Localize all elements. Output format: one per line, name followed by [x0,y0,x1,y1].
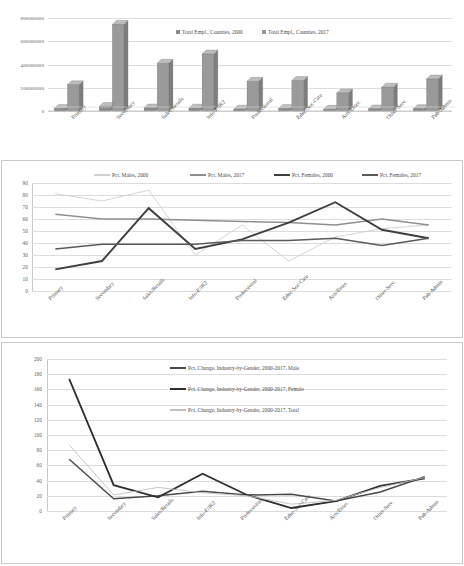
y-tick-label: 800000000 [21,16,44,21]
legend-item: Total Empl., Counties, 2017 [262,29,329,35]
legend-label: Pct. Change, Industry-by-Gender, 2000-20… [188,407,299,413]
y-tick-label: 60 [10,216,28,222]
y-tick-label: 200 [18,356,42,362]
y-tick-label: 90 [10,180,28,186]
legend-line-icon [170,388,186,390]
y-tick-label: 160 [18,386,42,392]
y-tick-label: 100 [18,432,42,438]
y-tick-label: 20 [10,264,28,270]
series-line [69,379,425,508]
y-tick-label: 50 [10,228,28,234]
bar-front [189,108,201,111]
y-tick-label: 200000000 [21,85,44,90]
bar-front [202,54,214,111]
chart-2-pct-by-gender: 9080706050403020100 Pct. Males, 2000Pct.… [1,160,463,338]
chart-1-total-employment: 8000000006000000004000000002000000000 To… [0,0,464,158]
bar-front [427,79,439,111]
legend-label: Pct. Males, 2017 [208,172,244,178]
bar-side [124,20,128,111]
y-tick-label: 0 [10,288,28,294]
y-tick-label: 40 [10,240,28,246]
y-tick-label: 20 [18,493,42,499]
y-tick-label: 30 [10,252,28,258]
legend-item: Pct. Change, Industry-by-Gender, 2000-20… [170,407,299,413]
chart-1-bars [48,18,452,111]
legend-label: Total Empl., Counties, 2000 [182,29,243,35]
bar-front [54,108,66,111]
legend-item: Total Empl., Counties, 2000 [176,29,243,35]
chart-2-lines [32,183,452,291]
legend-line-icon [170,367,186,369]
legend-item: Pct. Females, 2000 [274,172,333,178]
chart-3-pct-change: 200180160140120100806040200 Pct. Change,… [1,342,463,564]
legend-label: Pct. Change, Industry-by-Gender, 2000-20… [188,386,304,392]
bar-front [144,108,156,111]
legend-label: Total Empl., Counties, 2017 [268,29,329,35]
y-tick-label: 120 [18,417,42,423]
legend-line-icon [94,174,110,176]
legend-line-icon [362,174,378,176]
y-tick-label: 400000000 [21,62,44,67]
legend-item: Pct. Males, 2000 [94,172,148,178]
legend-label: Pct. Females, 2017 [380,172,421,178]
y-tick-label: 40 [18,478,42,484]
bar-front [247,81,259,111]
y-tick-label: 70 [10,204,28,210]
legend-label: Pct. Females, 2000 [292,172,333,178]
series-line [55,202,428,269]
y-tick-label: 80 [18,447,42,453]
bar-front [279,108,291,111]
bar-front [292,81,304,111]
y-tick-label: 140 [18,402,42,408]
legend-label: Pct. Change, Industry-by-Gender, 2000-20… [188,365,299,371]
legend-item: Pct. Males, 2017 [190,172,244,178]
y-tick-label: 10 [10,276,28,282]
legend-line-icon [274,174,290,176]
y-tick-label: 180 [18,371,42,377]
legend-item: Pct. Females, 2017 [362,172,421,178]
bar-front [112,24,124,111]
y-tick-label: 60 [18,462,42,468]
legend-line-icon [190,174,206,176]
chart-3-lines [47,359,447,511]
legend-swatch-icon [176,30,180,34]
y-tick-label: 80 [10,192,28,198]
legend-label: Pct. Males, 2000 [112,172,148,178]
legend-swatch-icon [262,30,266,34]
y-tick-label: 0 [18,508,42,514]
legend-item: Pct. Change, Industry-by-Gender, 2000-20… [170,365,299,371]
bar-front [157,63,169,111]
y-tick-label: 0 [41,109,44,114]
legend-item: Pct. Change, Industry-by-Gender, 2000-20… [170,386,304,392]
y-tick-label: 600000000 [21,39,44,44]
legend-line-icon [170,409,186,410]
